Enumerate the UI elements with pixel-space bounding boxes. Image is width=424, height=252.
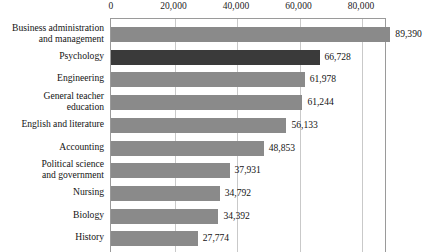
bar-0 xyxy=(111,27,390,42)
bar-row: Business administration and management89… xyxy=(0,23,424,46)
value-label-5: 48,853 xyxy=(269,142,295,153)
value-label-6: 37,931 xyxy=(235,164,261,175)
category-label-2: Engineering xyxy=(0,73,104,84)
x-axis-tick-labels: 020,00040,00060,00080,000 xyxy=(0,0,424,16)
category-label-0: Business administration and management xyxy=(0,23,104,44)
bar-7 xyxy=(111,186,220,201)
bar-5 xyxy=(111,141,264,156)
bar-6 xyxy=(111,163,230,178)
category-label-9: History xyxy=(0,232,104,243)
bar-row: Engineering61,978 xyxy=(0,68,424,91)
value-label-3: 61,244 xyxy=(307,96,333,107)
bar-2 xyxy=(111,72,305,87)
x-tick-label-2: 40,000 xyxy=(223,1,250,11)
category-label-7: Nursing xyxy=(0,187,104,198)
category-label-8: Biology xyxy=(0,210,104,221)
category-label-6: Political science and government xyxy=(0,159,104,180)
bar-row: Political science and government37,931 xyxy=(0,159,424,182)
value-label-8: 34,392 xyxy=(223,210,249,221)
category-label-5: Accounting xyxy=(0,142,104,153)
category-label-1: Psychology xyxy=(0,51,104,62)
value-label-2: 61,978 xyxy=(310,73,336,84)
category-label-3: General teacher education xyxy=(0,91,104,112)
bar-9 xyxy=(111,231,198,246)
x-tick-label-3: 60,000 xyxy=(285,1,312,11)
bar-3 xyxy=(111,95,302,110)
value-label-9: 27,774 xyxy=(203,232,229,243)
bar-row: Psychology66,728 xyxy=(0,46,424,69)
x-tick-label-1: 20,000 xyxy=(160,1,187,11)
bar-row: English and literature56,133 xyxy=(0,114,424,137)
bar-8 xyxy=(111,209,218,224)
bar-4 xyxy=(111,118,286,133)
value-label-0: 89,390 xyxy=(395,28,421,39)
value-label-4: 56,133 xyxy=(291,119,317,130)
bar-row: General teacher education61,244 xyxy=(0,91,424,114)
bar-row: History27,774 xyxy=(0,227,424,250)
category-label-4: English and literature xyxy=(0,119,104,130)
bar-1 xyxy=(111,50,320,65)
bar-row: Biology34,392 xyxy=(0,205,424,228)
bar-row: Nursing34,792 xyxy=(0,182,424,205)
horizontal-bar-chart: 020,00040,00060,00080,000 Business admin… xyxy=(0,0,424,252)
x-tick-label-4: 80,000 xyxy=(348,1,375,11)
value-label-1: 66,728 xyxy=(325,51,351,62)
x-tick-label-0: 0 xyxy=(109,1,114,11)
bar-row: Accounting48,853 xyxy=(0,137,424,160)
bar-rows: Business administration and management89… xyxy=(0,18,424,252)
value-label-7: 34,792 xyxy=(225,187,251,198)
